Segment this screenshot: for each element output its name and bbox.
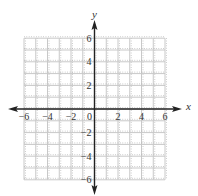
y-tick-label: 4 (87, 56, 92, 67)
x-tick-label: 4 (139, 111, 144, 122)
x-tick-label: −4 (42, 111, 53, 122)
x-tick-label: 2 (116, 111, 121, 122)
x-tick-label: −6 (19, 111, 30, 122)
coordinate-plane: −6−4−20246 642−2−4−6 x y (0, 0, 198, 196)
y-axis-label: y (91, 8, 97, 20)
y-tick-label: −6 (81, 174, 92, 185)
x-tick-label: 6 (163, 111, 168, 122)
x-tick-label: 0 (87, 111, 92, 122)
y-tick-label: 6 (87, 33, 92, 44)
x-tick-label: −2 (66, 111, 77, 122)
y-tick-label: −2 (81, 127, 92, 138)
y-tick-label: −4 (81, 151, 92, 162)
grid-lines (24, 37, 167, 180)
x-axis-label: x (185, 100, 191, 112)
y-tick-label: 2 (87, 80, 92, 91)
